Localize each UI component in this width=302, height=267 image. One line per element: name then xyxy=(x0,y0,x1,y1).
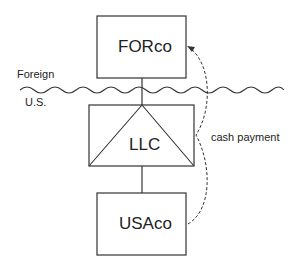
us-label: U.S. xyxy=(25,96,46,108)
foreign-label: Foreign xyxy=(17,68,54,80)
usaco-label: USAco xyxy=(119,214,172,234)
forco-label: FORco xyxy=(118,37,172,57)
cash-payment-arrow xyxy=(188,48,207,224)
border-wave xyxy=(20,87,284,93)
llc-label: LLC xyxy=(129,135,160,155)
cash-payment-label: cash payment xyxy=(211,131,279,143)
